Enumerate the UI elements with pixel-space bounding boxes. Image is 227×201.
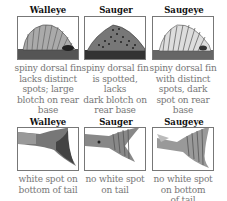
- caption-line: blotch on rear: [13, 95, 83, 106]
- sauger-tail-image: [84, 127, 146, 171]
- caption-line: spiny dorsal fin: [13, 63, 83, 74]
- sauger-dorsal-fin-image: [84, 16, 146, 60]
- caption-line: base: [13, 105, 83, 116]
- caption-line: rear base: [80, 105, 150, 116]
- caption-line: on bottom: [148, 185, 218, 196]
- caption-line: no white spot: [148, 174, 218, 185]
- caption-line: spot on rear: [148, 95, 218, 106]
- walleye-tail-caption: white spot on bottom of tail: [13, 174, 83, 195]
- walleye-dorsal-fin-image: [17, 16, 79, 60]
- saugeye-tail-title: Saugeye: [152, 117, 216, 127]
- caption-line: on tail: [80, 185, 150, 196]
- sauger-fin-title: Sauger: [84, 5, 148, 15]
- walleye-tail-title: Walleye: [16, 117, 80, 127]
- saugeye-fin-caption: spiny dorsal fin with distinct spots, da…: [148, 63, 218, 116]
- caption-line: spots, dark: [148, 84, 218, 95]
- caption-line: no white spot: [80, 174, 150, 185]
- caption-line: bottom of tail: [13, 185, 83, 196]
- caption-line: with distinct: [148, 74, 218, 85]
- caption-line: spiny dorsal fin: [80, 63, 150, 74]
- sauger-tail-caption: no white spot on tail: [80, 174, 150, 195]
- saugeye-dorsal-fin-image: [152, 16, 214, 60]
- saugeye-tail-image: [152, 127, 214, 171]
- caption-line: dark blotch on: [80, 95, 150, 106]
- caption-line: spiny dorsal fin: [148, 63, 218, 74]
- caption-line: lacks distinct: [13, 74, 83, 85]
- caption-line: base: [148, 105, 218, 116]
- caption-line: of tail: [148, 195, 218, 201]
- caption-line: is spotted, lacks: [80, 74, 150, 95]
- caption-line: white spot on: [13, 174, 83, 185]
- sauger-fin-caption: spiny dorsal fin is spotted, lacks dark …: [80, 63, 150, 116]
- saugeye-fin-title: Saugeye: [152, 5, 216, 15]
- walleye-fin-caption: spiny dorsal fin lacks distinct spots; l…: [13, 63, 83, 116]
- caption-line: spots; large: [13, 84, 83, 95]
- saugeye-tail-caption: no white spot on bottom of tail: [148, 174, 218, 201]
- sauger-tail-title: Sauger: [84, 117, 148, 127]
- walleye-tail-image: [17, 127, 79, 171]
- walleye-fin-title: Walleye: [16, 5, 80, 15]
